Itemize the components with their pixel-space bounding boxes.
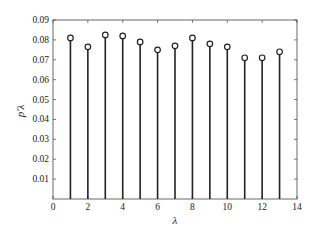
x-axis-label: λ	[172, 214, 178, 226]
stem-marker	[242, 55, 248, 61]
stem-marker	[155, 47, 161, 53]
y-tick-label: 0.09	[32, 15, 49, 25]
stem-marker	[120, 33, 126, 39]
stem-marker	[277, 49, 283, 55]
x-tick-label: 0	[51, 202, 56, 212]
stem-chart: 024681012140.010.020.030.040.050.060.070…	[0, 0, 315, 233]
stem-marker	[190, 35, 196, 41]
y-axis-label: p'λ	[14, 104, 26, 118]
x-tick-label: 14	[292, 202, 302, 212]
stem-marker	[68, 35, 74, 41]
stem-marker	[137, 39, 143, 45]
x-tick-label: 6	[155, 202, 160, 212]
x-tick-label: 2	[85, 202, 90, 212]
x-tick-label: 10	[223, 202, 233, 212]
y-tick-label: 0.07	[32, 55, 49, 65]
y-tick-label: 0.04	[32, 114, 49, 124]
y-tick-label: 0.05	[32, 95, 49, 105]
stem-marker	[172, 43, 178, 49]
y-tick-label: 0.02	[32, 154, 49, 164]
y-tick-label: 0.06	[32, 75, 49, 85]
stems	[68, 32, 283, 199]
y-tick-label: 0.01	[32, 174, 49, 184]
stem-marker	[102, 32, 108, 38]
stem-marker	[259, 55, 265, 61]
stem-marker	[207, 41, 213, 47]
y-tick-label: 0.08	[32, 35, 49, 45]
y-tick-label: 0.03	[32, 134, 49, 144]
stem-marker	[224, 44, 230, 50]
stem-marker	[85, 44, 91, 50]
x-tick-label: 12	[257, 202, 267, 212]
x-tick-label: 8	[190, 202, 195, 212]
x-tick-label: 4	[120, 202, 125, 212]
